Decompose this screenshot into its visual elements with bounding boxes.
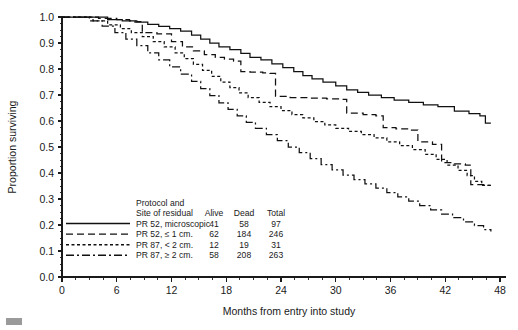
- legend-row-label: PR 52, microscopic: [136, 219, 211, 229]
- x-tick-label: 42: [439, 284, 451, 296]
- survival-curve-2: [62, 17, 491, 185]
- legend-row-value: 97: [271, 219, 281, 229]
- axis-spines: [62, 17, 506, 278]
- x-tick-label: 18: [220, 284, 232, 296]
- legend-title-line2: Site of residual: [136, 208, 193, 218]
- legend-row-value: 58: [239, 219, 249, 229]
- x-tick-label: 6: [114, 284, 120, 296]
- x-tick-label: 24: [275, 284, 287, 296]
- legend-row-label: PR 52, ≤ 1 cm.: [136, 229, 193, 239]
- legend-row-value: 12: [209, 240, 219, 250]
- y-tick-label: 0.3: [39, 193, 54, 205]
- legend-column-header: Dead: [234, 208, 255, 218]
- legend-row-value: 58: [209, 250, 219, 260]
- x-tick-label: 30: [330, 284, 342, 296]
- y-tick-label: 1.0: [39, 11, 54, 23]
- legend-row-label: PR 87, < 2 cm.: [136, 240, 193, 250]
- legend-row-value: 62: [209, 229, 219, 239]
- legend-title-line1: Protocol and: [136, 198, 184, 208]
- survival-curve-4: [62, 17, 491, 232]
- legend-column-header: Alive: [205, 208, 224, 218]
- y-tick-label: 0.4: [39, 167, 54, 179]
- legend-row-value: 19: [239, 240, 249, 250]
- legend-row-value: 184: [237, 229, 252, 239]
- x-tick-label: 36: [385, 284, 397, 296]
- legend-row-value: 41: [209, 219, 219, 229]
- x-tick-label: 0: [59, 284, 65, 296]
- survival-curve-3: [62, 17, 491, 186]
- y-tick-label: 0.9: [39, 37, 54, 49]
- legend-column-header: Total: [267, 208, 285, 218]
- figure-corner-mark: [6, 318, 22, 325]
- legend-row-label: PR 87, ≥ 2 cm.: [136, 250, 193, 260]
- legend-row-value: 263: [269, 250, 284, 260]
- x-tick-label: 12: [166, 284, 178, 296]
- y-axis-title: Proportion surviving: [6, 100, 18, 193]
- kaplan-meier-figure: 0.00.10.20.30.40.50.60.70.80.91.00612182…: [0, 0, 518, 330]
- y-tick-label: 0.2: [39, 219, 54, 231]
- legend-row-value: 208: [237, 250, 252, 260]
- y-tick-label: 0.6: [39, 115, 54, 127]
- y-tick-label: 0.7: [39, 89, 54, 101]
- y-tick-label: 0.0: [39, 271, 54, 283]
- y-tick-label: 0.8: [39, 63, 54, 75]
- curves-layer: [62, 17, 491, 232]
- x-tick-label: 48: [494, 284, 506, 296]
- legend-row-value: 31: [271, 240, 281, 250]
- x-axis-title: Months from entry into study: [223, 305, 356, 317]
- y-tick-label: 0.5: [39, 141, 54, 153]
- legend-row-value: 246: [269, 229, 284, 239]
- survival-chart-svg: 0.00.10.20.30.40.50.60.70.80.91.00612182…: [0, 0, 518, 330]
- y-tick-label: 0.1: [39, 245, 54, 257]
